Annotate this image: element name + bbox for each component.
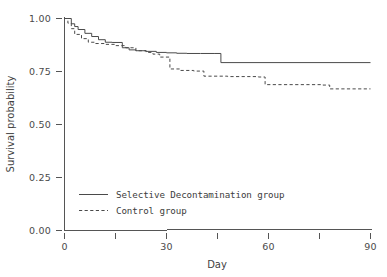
y-tick-label-0p75: 0.75 <box>29 66 51 77</box>
x-tick-marks <box>65 233 371 239</box>
legend-label-selective-decontamination: Selective Decontamination group <box>116 189 284 200</box>
y-axis-title: Survival probability <box>5 75 16 172</box>
x-tick-label-0: 0 <box>61 241 67 252</box>
y-tick-marks <box>56 19 62 231</box>
legend-entry-selective-decontamination: Selective Decontamination group <box>79 189 284 200</box>
legend-entry-control: Control group <box>79 205 187 216</box>
x-tick-labels: 0 30 60 90 <box>61 241 376 252</box>
y-tick-label-0p50: 0.50 <box>29 119 51 130</box>
curves-group <box>65 19 371 89</box>
x-tick-label-30: 30 <box>160 241 173 252</box>
legend-label-control: Control group <box>116 205 187 216</box>
x-axis-line <box>65 229 373 231</box>
legend: Selective Decontamination group Control … <box>79 189 284 216</box>
y-tick-label-0p25: 0.25 <box>29 172 51 183</box>
x-tick-label-90: 90 <box>364 241 377 252</box>
survival-plot-figure: 1.00 0.75 0.50 0.25 0.00 0 30 60 90 Day … <box>0 0 387 277</box>
x-axis-title: Day <box>207 259 227 270</box>
x-tick-label-60: 60 <box>262 241 275 252</box>
y-tick-label-1p00: 1.00 <box>29 13 51 24</box>
kaplan-meier-chart: 1.00 0.75 0.50 0.25 0.00 0 30 60 90 Day … <box>0 0 387 277</box>
y-tick-labels: 1.00 0.75 0.50 0.25 0.00 <box>29 13 51 236</box>
y-tick-label-0p00: 0.00 <box>29 225 51 236</box>
curve-selective-decontamination <box>65 19 371 63</box>
